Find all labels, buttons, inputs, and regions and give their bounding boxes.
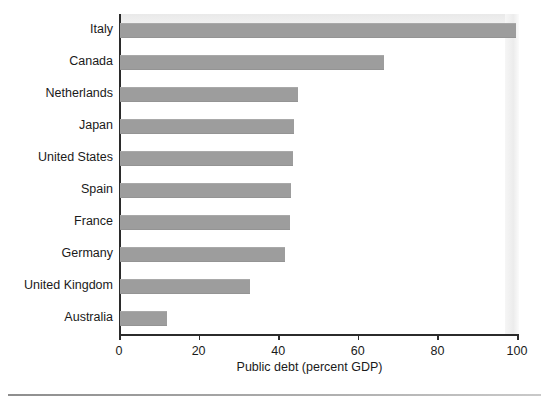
- category-label: Netherlands: [46, 86, 113, 100]
- category-axis-labels: ItalyCanadaNetherlandsJapanUnited States…: [0, 14, 113, 334]
- x-tick-label: 20: [192, 344, 206, 358]
- category-label: Italy: [90, 22, 113, 36]
- bar: [120, 119, 294, 134]
- x-tick-label: 60: [351, 344, 365, 358]
- x-tick-label: 80: [430, 344, 444, 358]
- x-axis-line: [119, 334, 517, 336]
- category-label: Australia: [64, 310, 113, 324]
- figure-container: ItalyCanadaNetherlandsJapanUnited States…: [0, 0, 549, 404]
- bar: [120, 247, 285, 262]
- bar: [120, 215, 290, 230]
- category-label: United Kingdom: [24, 278, 113, 292]
- category-label: Japan: [79, 118, 113, 132]
- x-tick: [517, 334, 519, 340]
- category-label: Canada: [69, 54, 113, 68]
- x-tick-label: 0: [116, 344, 123, 358]
- x-tick: [278, 334, 280, 340]
- bar: [120, 279, 250, 294]
- bar: [120, 55, 384, 70]
- x-axis-title-text: Public debt (percent GDP): [167, 360, 383, 374]
- category-label: United States: [38, 150, 113, 164]
- x-tick: [437, 334, 439, 340]
- x-axis-title: Public debt (percent GDP): [0, 360, 549, 374]
- footer-rule: [8, 394, 541, 396]
- plot-area: 020406080100: [119, 14, 517, 334]
- category-label: Spain: [81, 182, 113, 196]
- x-tick: [199, 334, 201, 340]
- category-label: France: [74, 214, 113, 228]
- category-label: Germany: [62, 246, 113, 260]
- x-tick: [119, 334, 121, 340]
- x-tick-label: 100: [507, 344, 528, 358]
- x-tick-label: 40: [271, 344, 285, 358]
- bar: [120, 183, 291, 198]
- bar: [120, 311, 167, 326]
- bar: [120, 23, 516, 38]
- x-tick: [358, 334, 360, 340]
- bar: [120, 87, 298, 102]
- bar: [120, 151, 293, 166]
